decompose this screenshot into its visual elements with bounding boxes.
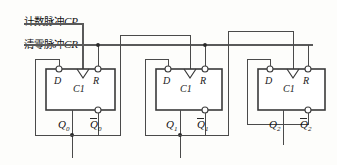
ff1-r-bubble (202, 66, 208, 72)
ff1-clock-label: C1 (180, 83, 192, 94)
junction-dot-cr-ff1 (203, 43, 207, 47)
ff0-qbar-bubble (95, 107, 101, 113)
ff0-r-label: R (92, 75, 99, 86)
ff1-qbar-bubble (202, 107, 208, 113)
ff2-r-label: R (302, 75, 309, 86)
ff0-qbar-output-label: Q0 (90, 118, 102, 133)
ff1-d-bubble (165, 66, 171, 72)
circuit-svg: D R C1 Q0 Q0 D R C1 (0, 0, 337, 165)
ff0-q-output-label: Q0 (58, 118, 70, 133)
ff2-qbar-output-label: Q2 (300, 118, 312, 133)
ff2-clock-label: C1 (283, 83, 295, 94)
ff0-d-bubble (56, 66, 62, 72)
ff2-d-label: D (264, 75, 273, 86)
ff1-qbar-output-label: Q1 (197, 118, 208, 133)
junction-dot-cr-ff0 (96, 43, 100, 47)
ff2-d-bubble (267, 66, 273, 72)
cp-net (24, 24, 83, 69)
ff0-d-label: D (53, 75, 62, 86)
ff2-r-bubble (305, 66, 311, 72)
schematic-canvas: 计数脉冲CP 清零脉冲CR (0, 0, 337, 165)
ff1-r-label: R (199, 75, 206, 86)
ff1-d-label: D (162, 75, 171, 86)
ff1-q-output-label: Q1 (166, 118, 177, 133)
ff2-q-output-label: Q2 (269, 118, 281, 133)
ff2-qbar-bubble (305, 107, 311, 113)
flipflop-2: D R C1 (258, 66, 325, 113)
flipflop-0: D R C1 (46, 66, 115, 113)
ff0-r-bubble (95, 66, 101, 72)
flipflop-1: D R C1 (156, 66, 222, 113)
ff0-clock-label: C1 (73, 83, 85, 94)
cp-wire (24, 24, 83, 69)
